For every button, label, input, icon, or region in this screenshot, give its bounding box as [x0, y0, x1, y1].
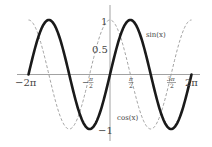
frac-num: π — [128, 75, 134, 82]
y-tick-1: 1 — [101, 16, 107, 27]
sin-label: sin(x) — [146, 31, 166, 39]
minus-sign: − — [82, 78, 89, 87]
frac-den: 2 — [129, 82, 133, 89]
y-tick-neg-1: −1 — [98, 125, 113, 136]
frac-den: 2 — [89, 82, 93, 89]
frac-den: 2 — [170, 82, 174, 89]
frac-num: π — [88, 75, 94, 82]
sin-cos-chart: 1 0.5 −1 −2π − π 2 π 2 3π 2 2π sin(x) co… — [0, 0, 212, 147]
x-tick-neg-pi-over-2: − π 2 — [82, 75, 94, 89]
frac-num: 3π — [167, 75, 176, 82]
x-tick-neg-2pi: −2π — [15, 77, 37, 88]
x-tick-3pi-over-2: 3π 2 — [167, 75, 176, 89]
x-tick-2pi: 2π — [185, 77, 198, 88]
y-tick-0-5: 0.5 — [92, 44, 108, 55]
cos-label: cos(x) — [117, 114, 138, 122]
